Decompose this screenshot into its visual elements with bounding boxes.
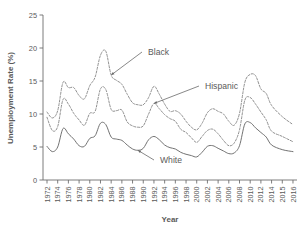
x-tick-label: 1978 (75, 187, 84, 203)
series-line-white (47, 122, 293, 157)
x-tick-label: 2000 (192, 187, 201, 203)
chart-canvas: 0510152025 19721974197619781980198219841… (0, 0, 308, 230)
y-tick-label: 25 (29, 11, 37, 20)
x-tick-label: 1974 (53, 187, 62, 203)
x-tick-label: 1984 (107, 187, 116, 203)
x-tick-label: 2012 (256, 187, 265, 203)
y-tick-label: 5 (33, 143, 37, 152)
x-tick-label: 1992 (150, 187, 159, 203)
x-tick-label: 1990 (139, 187, 148, 203)
x-axis-label: Year (162, 215, 179, 224)
x-tick-label: 1996 (171, 187, 180, 203)
x-tick-label: 1994 (160, 187, 169, 203)
x-tick-label: 2015 (278, 187, 287, 203)
x-axis-ticks: 1972197419761978198019821984198619881990… (43, 180, 298, 203)
series-line-hispanic (47, 87, 293, 146)
y-axis-ticks: 0510152025 (29, 11, 43, 185)
x-tick-label: 2008 (235, 187, 244, 203)
x-tick-label: 1988 (128, 187, 137, 203)
x-tick-label: 2004 (214, 187, 223, 203)
y-tick-label: 0 (33, 176, 37, 185)
x-tick-label: 2002 (203, 187, 212, 203)
x-tick-label: 1976 (64, 187, 73, 203)
y-tick-label: 15 (29, 77, 37, 86)
x-tick-label: 1986 (117, 187, 126, 203)
x-tick-label: 2016 (289, 187, 298, 203)
x-tick-label: 2014 (267, 187, 276, 203)
data-series (47, 50, 293, 157)
x-tick-label: 1980 (85, 187, 94, 203)
series-line-black (47, 50, 293, 130)
annotation-arrowhead-hispanic (154, 101, 157, 104)
x-tick-label: 1998 (182, 187, 191, 203)
unemployment-rate-chart: 0510152025 19721974197619781980198219841… (0, 0, 308, 230)
x-tick-label: 2010 (246, 187, 255, 203)
annotation-leader-hispanic (154, 86, 199, 103)
series-label-hispanic: Hispanic (205, 81, 239, 91)
annotation-leader-black (111, 52, 142, 75)
series-label-black: Black (148, 47, 170, 57)
y-tick-label: 10 (29, 110, 37, 119)
x-tick-label: 1972 (43, 187, 52, 203)
x-tick-label: 1982 (96, 187, 105, 203)
y-tick-label: 20 (29, 44, 37, 53)
series-label-white: White (160, 155, 182, 165)
y-axis-label: Unemployment Rate (%) (6, 52, 15, 144)
x-tick-label: 2006 (224, 187, 233, 203)
